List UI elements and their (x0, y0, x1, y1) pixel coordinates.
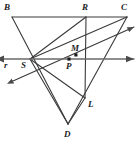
diagram-canvas (0, 0, 139, 144)
segment-sl (30, 59, 85, 98)
point-label-d: D (64, 130, 71, 139)
point-label-c: C (121, 3, 127, 12)
rays-group (4, 27, 134, 81)
segment-rl (85, 17, 86, 98)
point-label-m: M (71, 44, 79, 53)
point-label-s: S (21, 61, 26, 70)
point-label-b: B (4, 3, 10, 12)
segment-dl (68, 98, 85, 124)
point-label-p: P (66, 62, 72, 71)
line-label-r: r (4, 61, 8, 70)
point-label-l: L (88, 100, 94, 109)
point-marker-m (74, 53, 77, 56)
point-label-r: R (82, 3, 88, 12)
segment-bd (12, 17, 68, 124)
geometry-figure: B R C S M P L D r (0, 0, 139, 144)
segment-cd (68, 17, 127, 124)
segment-sd (30, 59, 68, 124)
